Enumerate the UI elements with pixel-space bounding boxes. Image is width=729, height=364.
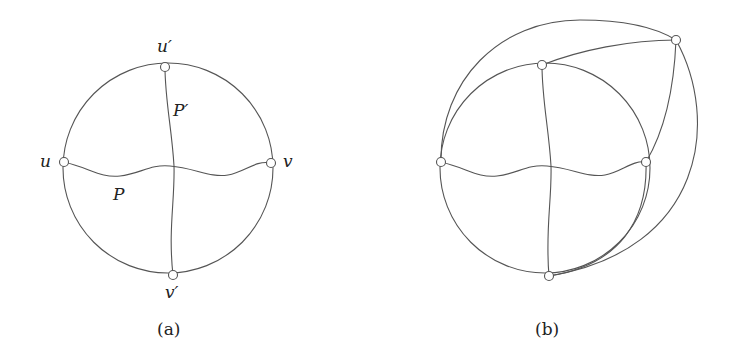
vertex-top-right bbox=[672, 36, 681, 45]
path-P-b bbox=[441, 162, 646, 176]
label-u-prime: u′ bbox=[157, 36, 172, 56]
vertex-right bbox=[642, 158, 651, 167]
path-P-prime-b bbox=[542, 65, 551, 276]
caption-a: (a) bbox=[157, 319, 180, 339]
path-P-prime bbox=[165, 67, 174, 275]
vertex-top bbox=[538, 61, 547, 70]
edge-topright-to-right bbox=[646, 40, 676, 162]
path-P bbox=[64, 162, 271, 176]
vertex-v-prime bbox=[169, 271, 178, 280]
caption-b: (b) bbox=[535, 319, 559, 339]
label-v: v bbox=[283, 151, 293, 171]
outer-cycle-b bbox=[440, 63, 650, 273]
label-v-prime: v′ bbox=[165, 282, 179, 302]
panel-b: (b) bbox=[437, 20, 698, 339]
vertex-v bbox=[267, 159, 276, 168]
vertex-bottom bbox=[545, 272, 554, 281]
panel-a: u v u′ v′ P′ P (a) bbox=[40, 36, 293, 339]
label-P: P bbox=[112, 184, 125, 204]
vertex-u-prime bbox=[161, 63, 170, 72]
figure-canvas: u v u′ v′ P′ P (a) (b) bbox=[0, 0, 729, 364]
label-P-prime: P′ bbox=[172, 100, 188, 120]
outer-cycle-a bbox=[63, 63, 273, 273]
vertex-left bbox=[437, 158, 446, 167]
edge-topright-to-bottom bbox=[549, 40, 697, 276]
label-u: u bbox=[40, 151, 51, 171]
edge-top-to-topright bbox=[542, 40, 676, 65]
vertex-u bbox=[60, 158, 69, 167]
